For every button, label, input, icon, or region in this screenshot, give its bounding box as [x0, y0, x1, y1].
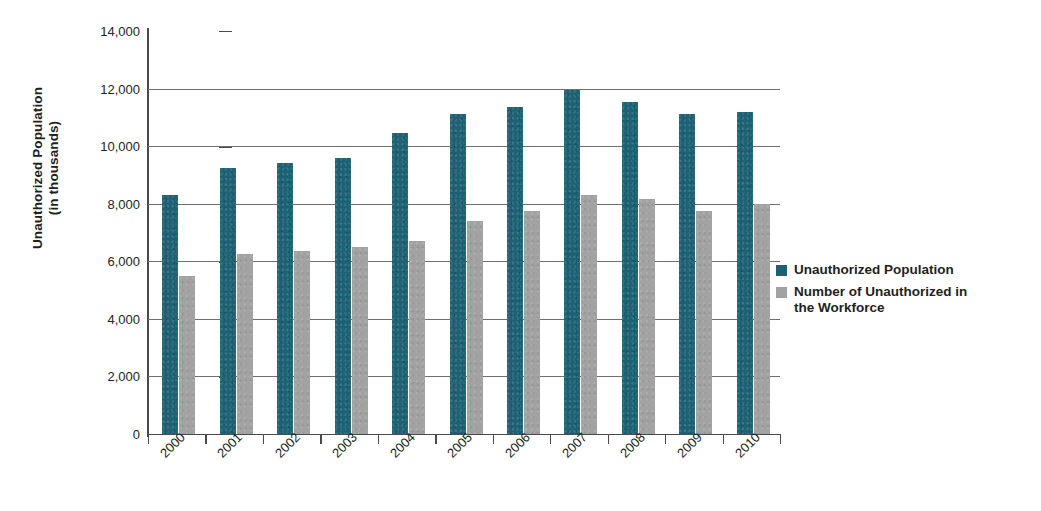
y-axis-tick-label: 4,000: [80, 311, 140, 326]
chart-legend: Unauthorized PopulationNumber of Unautho…: [776, 262, 1031, 322]
y-axis-tick-labels: 02,0004,0006,0008,00010,00012,00014,000: [78, 0, 140, 511]
bar: [639, 199, 655, 434]
bar: [335, 158, 351, 434]
bar: [162, 195, 178, 434]
x-axis-tick-mark: [780, 435, 781, 444]
bar: [179, 276, 195, 434]
bar: [564, 90, 580, 434]
x-axis-tick-mark: [435, 435, 436, 444]
bar: [220, 168, 236, 434]
bar: [277, 163, 293, 434]
bar: [754, 204, 770, 434]
bar: [696, 211, 712, 434]
legend-swatch-workforce: [776, 287, 787, 298]
bar: [409, 241, 425, 434]
bar: [507, 107, 523, 434]
legend-item: Number of Unauthorized in the Workforce: [776, 284, 1031, 316]
y-axis-tick-label: 6,000: [80, 254, 140, 269]
bar: [679, 114, 695, 434]
bar: [237, 254, 253, 434]
y-axis-tick-label: 12,000: [80, 81, 140, 96]
bar: [524, 211, 540, 434]
y-axis-title: Unauthorized Population (in thousands): [30, 38, 62, 298]
x-axis-tick-mark: [493, 435, 494, 444]
bar: [467, 221, 483, 434]
y-axis-tick-label: 10,000: [80, 139, 140, 154]
legend-label: Number of Unauthorized in the Workforce: [794, 284, 967, 316]
y-axis-tick-label: 14,000: [80, 24, 140, 39]
y-axis-tick-label: 2,000: [80, 369, 140, 384]
x-axis-tick-mark: [205, 435, 206, 444]
bar: [622, 102, 638, 434]
x-axis-tick-mark: [665, 435, 666, 444]
x-axis-tick-mark: [550, 435, 551, 444]
bar-chart: Unauthorized Population (in thousands) 0…: [0, 0, 1041, 511]
legend-label: Unauthorized Population: [794, 262, 954, 278]
x-axis-tick-mark: [320, 435, 321, 444]
plot-area: [148, 31, 780, 434]
x-axis-tick-mark: [378, 435, 379, 444]
bar: [581, 195, 597, 434]
x-axis-tick-mark: [263, 435, 264, 444]
gridline: [148, 89, 780, 90]
legend-item: Unauthorized Population: [776, 262, 1031, 278]
legend-swatch-unauthorized-population: [776, 265, 787, 276]
bar: [294, 251, 310, 434]
y-axis-tick-label: 8,000: [80, 196, 140, 211]
bar: [392, 133, 408, 434]
y-axis-tick-label: 0: [80, 427, 140, 442]
x-axis-tick-mark: [608, 435, 609, 444]
bar: [450, 114, 466, 434]
x-axis-tick-mark: [723, 435, 724, 444]
bar: [352, 247, 368, 434]
x-axis-tick-mark: [148, 435, 149, 444]
bar: [737, 112, 753, 434]
